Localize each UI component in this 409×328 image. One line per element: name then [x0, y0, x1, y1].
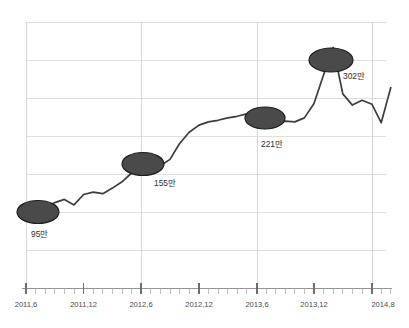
- marker-221[interactable]: [245, 107, 285, 129]
- x-tick-label-2013-6: 2013,6: [245, 300, 268, 309]
- line-chart-figure: 95만 155만 221만 302만 2011,6 2011,12 2012,6…: [0, 0, 409, 328]
- marker-155[interactable]: [122, 153, 164, 176]
- x-tick-label-2012-12: 2012,12: [185, 300, 212, 309]
- value-label-155: 155만: [154, 178, 176, 188]
- x-tick-label-2014-8: 2014,8: [371, 300, 394, 309]
- x-tick-label-2012-6: 2012,6: [129, 300, 152, 309]
- x-tick-label-2011-12: 2011,12: [70, 300, 97, 309]
- chart-background: [0, 0, 409, 328]
- value-label-302: 302만: [343, 71, 365, 81]
- x-tick-label-2013-12: 2013,12: [300, 300, 327, 309]
- value-label-221: 221만: [261, 139, 283, 149]
- x-tick-label-2011-6: 2011,6: [15, 300, 38, 309]
- marker-302[interactable]: [309, 48, 353, 72]
- value-label-95: 95만: [31, 229, 48, 239]
- chart-canvas: 95만 155만 221만 302만 2011,6 2011,12 2012,6…: [0, 0, 409, 328]
- marker-95[interactable]: [17, 201, 59, 224]
